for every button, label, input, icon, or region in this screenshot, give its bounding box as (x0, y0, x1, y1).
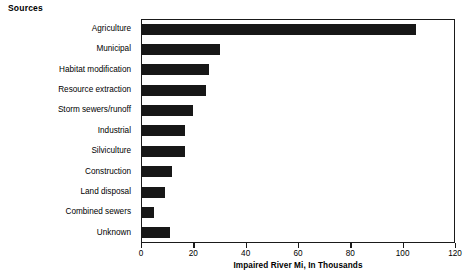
bar (141, 44, 220, 55)
x-tick (193, 243, 194, 248)
bar-row (141, 100, 455, 120)
bar-row (141, 39, 455, 59)
category-label: Agriculture (0, 19, 136, 39)
bar (141, 24, 416, 35)
bar (141, 187, 165, 198)
bar-row (141, 202, 455, 222)
bar (141, 227, 170, 238)
bar (141, 85, 206, 96)
x-axis-title: Impaired River Mi, In Thousands (141, 261, 455, 270)
bar (141, 146, 185, 157)
category-axis-labels: AgricultureMunicipalHabitat modification… (0, 19, 136, 243)
category-label: Storm sewers/runoff (0, 100, 136, 120)
category-label: Combined sewers (0, 202, 136, 222)
category-label: Habitat modification (0, 60, 136, 80)
bar-chart: AgricultureMunicipalHabitat modification… (0, 0, 467, 273)
bar-row (141, 121, 455, 141)
x-tick-label: 0 (139, 249, 144, 258)
bar-row (141, 162, 455, 182)
x-tick-label: 100 (396, 249, 410, 258)
x-tick-label: 40 (241, 249, 250, 258)
category-label: Silviculture (0, 141, 136, 161)
x-tick-label: 20 (189, 249, 198, 258)
category-label: Construction (0, 162, 136, 182)
category-label: Unknown (0, 223, 136, 243)
bar (141, 125, 185, 136)
bar (141, 105, 193, 116)
bar-row (141, 19, 455, 39)
x-tick-label: 80 (346, 249, 355, 258)
x-tick (403, 243, 404, 248)
x-tick (455, 243, 456, 248)
bar (141, 166, 172, 177)
category-label: Municipal (0, 39, 136, 59)
bars-container (141, 19, 455, 243)
category-label: Land disposal (0, 182, 136, 202)
x-tick-label: 60 (293, 249, 302, 258)
bar (141, 207, 154, 218)
category-label: Industrial (0, 121, 136, 141)
bar-row (141, 80, 455, 100)
x-tick (298, 243, 299, 248)
bar-row (141, 182, 455, 202)
x-tick (350, 243, 351, 248)
bar-row (141, 60, 455, 80)
x-tick (141, 243, 142, 248)
bar (141, 64, 209, 75)
x-tick-label: 120 (448, 249, 462, 258)
bar-row (141, 141, 455, 161)
bar-row (141, 223, 455, 243)
category-label: Resource extraction (0, 80, 136, 100)
x-tick (246, 243, 247, 248)
